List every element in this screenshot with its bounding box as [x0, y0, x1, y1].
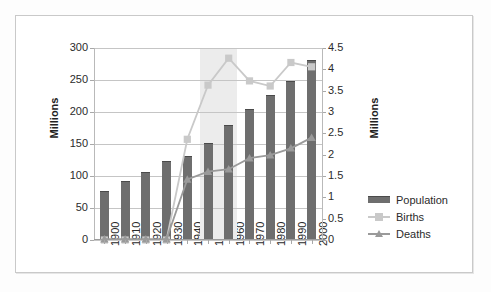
x-axis-tickmark [104, 240, 105, 244]
x-axis-tickmark [249, 240, 250, 244]
marker-births-1950 [204, 82, 211, 89]
legend-item-label: Deaths [396, 228, 431, 240]
right-axis-tick-label: 0.5 [328, 213, 368, 224]
marker-births-1960 [225, 55, 232, 62]
right-axis-tick-label: 3 [328, 106, 368, 117]
marker-births-1940 [184, 136, 191, 143]
x-axis-tickmark [312, 240, 313, 244]
marker-births-1980 [267, 82, 274, 89]
x-axis-tickmark [229, 240, 230, 244]
right-axis-tick-label: 1 [328, 191, 368, 202]
line-series-layer [94, 48, 322, 240]
x-axis-tickmark [146, 240, 147, 244]
marker-births-2000 [308, 63, 315, 70]
right-axis-tick-label: 4.5 [328, 42, 368, 53]
legend-bar-swatch-icon [368, 196, 390, 203]
legend-item-population[interactable]: Population [368, 191, 448, 208]
legend-square-marker-icon [375, 213, 383, 221]
x-axis-tickmark [291, 240, 292, 244]
legend-line-swatch-icon [368, 229, 390, 238]
left-axis-tick-label: 150 [44, 138, 88, 149]
marker-births-1970 [246, 77, 253, 84]
marker-deaths-2000 [307, 133, 315, 141]
left-axis-tick-label: 200 [44, 106, 88, 117]
right-axis-tick-label: 1.5 [328, 170, 368, 181]
left-axis-tick-label: 100 [44, 170, 88, 181]
left-axis-tick-label: 250 [44, 74, 88, 85]
x-axis-tickmark [270, 240, 271, 244]
legend-item-label: Births [396, 211, 424, 223]
legend-triangle-marker-icon [375, 230, 383, 237]
right-axis-tick-label: 2.5 [328, 127, 368, 138]
right-axis-tick-label: 3.5 [328, 85, 368, 96]
chart-legend: PopulationBirthsDeaths [368, 191, 448, 242]
x-axis-tickmark [167, 240, 168, 244]
left-axis-tick-label: 50 [44, 202, 88, 213]
right-axis-tick-label: 0 [328, 234, 368, 245]
x-axis-tickmark [208, 240, 209, 244]
legend-line-swatch-icon [368, 212, 390, 221]
right-axis-line [322, 48, 323, 240]
marker-deaths-1990 [287, 144, 295, 152]
left-axis-tick-label: 0 [44, 234, 88, 245]
legend-item-deaths[interactable]: Deaths [368, 225, 448, 242]
right-axis-tick-label: 4 [328, 63, 368, 74]
marker-births-1990 [287, 59, 294, 66]
line-deaths [104, 138, 311, 240]
right-axis-tick-label: 2 [328, 149, 368, 160]
left-axis-tick-label: 300 [44, 42, 88, 53]
chart-frame: Millions Millions 050100150200250300 00.… [15, 15, 473, 273]
legend-item-births[interactable]: Births [368, 208, 448, 225]
chart-screenshot: Millions Millions 050100150200250300 00.… [0, 0, 491, 292]
plot-area [94, 48, 322, 240]
x-axis-tickmark [125, 240, 126, 244]
right-axis-title: Millions [368, 78, 380, 158]
legend-item-label: Population [396, 194, 448, 206]
x-axis-tickmark [187, 240, 188, 244]
